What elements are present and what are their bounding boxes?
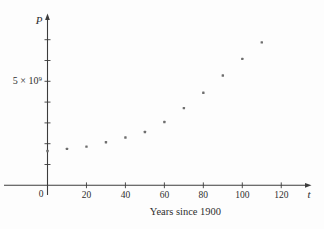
- data-point: [241, 58, 243, 60]
- data-point: [163, 121, 165, 123]
- x-tick-label: 20: [82, 190, 92, 200]
- data-point: [261, 41, 263, 43]
- x-tick-label: 40: [121, 190, 131, 200]
- y-axis-arrow-icon: [45, 14, 50, 21]
- x-tick-label: 80: [199, 190, 209, 200]
- x-tick-labels: 20406080100120: [82, 190, 289, 200]
- x-tick-label: 100: [235, 190, 250, 200]
- population-scatter-figure: 20406080100120 P t 5 × 10⁹ 0 Years since…: [0, 0, 324, 229]
- data-point: [66, 148, 68, 150]
- origin-label: 0: [39, 189, 44, 199]
- data-point: [105, 141, 107, 143]
- data-point: [85, 145, 87, 147]
- data-point: [124, 136, 126, 138]
- data-point: [144, 131, 146, 133]
- y-axis-title: P: [35, 14, 43, 26]
- y-axis: [45, 14, 50, 196]
- x-axis: [4, 183, 312, 188]
- scatter-plot-canvas: 20406080100120 P t 5 × 10⁹ 0 Years since…: [0, 0, 324, 229]
- data-point: [183, 107, 185, 109]
- data-point: [202, 92, 204, 94]
- data-points: [46, 41, 263, 152]
- x-tick-label: 120: [274, 190, 289, 200]
- data-point: [222, 74, 224, 76]
- data-point: [46, 150, 48, 152]
- x-axis-title: t: [308, 188, 312, 200]
- y-tick-label-5e9: 5 × 10⁹: [13, 75, 43, 86]
- x-axis-caption: Years since 1900: [150, 206, 221, 217]
- x-tick-label: 60: [160, 190, 170, 200]
